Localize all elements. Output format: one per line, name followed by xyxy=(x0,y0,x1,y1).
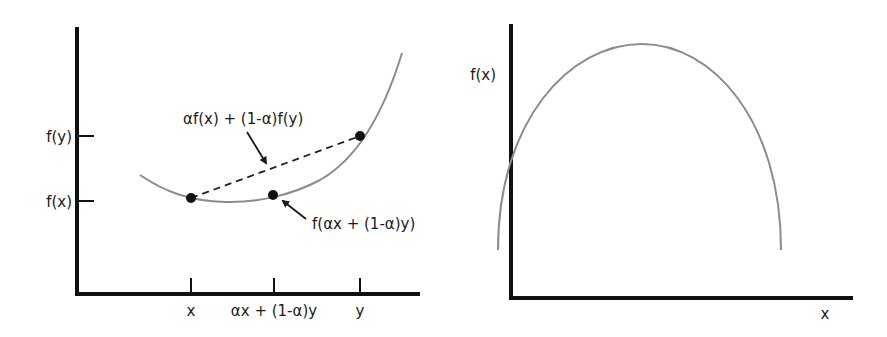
convexity-diagram: f(y) f(x) x αx + (1-α)y y αf(x) + (1-α)f… xyxy=(0,0,887,337)
point-fx xyxy=(186,193,196,203)
x-tick-label-mid: αx + (1-α)y xyxy=(231,302,317,320)
x-tick-label-y: y xyxy=(356,302,365,320)
y-tick-label-fx: f(x) xyxy=(46,193,72,211)
chord-arrow-icon xyxy=(247,132,266,163)
point-f-mid xyxy=(268,190,278,200)
y-tick-label-fy: f(y) xyxy=(46,128,72,146)
point-fy xyxy=(355,131,365,141)
chord-dashed-line xyxy=(191,136,360,198)
right-y-axis-label: f(x) xyxy=(470,66,496,84)
x-tick-label-x: x xyxy=(187,302,196,320)
right-concave-diagram: f(x) x xyxy=(470,24,853,323)
curve-point-arrow-icon xyxy=(283,201,306,219)
curve-point-label: f(αx + (1-α)y) xyxy=(312,215,415,233)
chord-label: αf(x) + (1-α)f(y) xyxy=(183,110,303,128)
right-x-axis-label: x xyxy=(821,305,830,323)
concave-curve xyxy=(498,44,781,250)
left-convex-diagram: f(y) f(x) x αx + (1-α)y y αf(x) + (1-α)f… xyxy=(46,27,420,320)
